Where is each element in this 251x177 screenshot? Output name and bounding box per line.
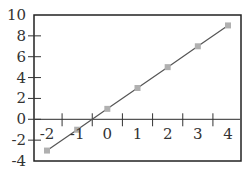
y-tick-label: 6 <box>16 48 26 66</box>
data-point-marker <box>195 43 201 49</box>
x-tick-label: 0 <box>103 125 113 143</box>
y-axis-tick-labels: 1086420-2-4 <box>7 6 26 170</box>
x-tick-label: -2 <box>40 125 55 143</box>
data-point-marker <box>44 148 50 154</box>
data-point-marker <box>104 106 110 112</box>
y-tick-label: -2 <box>11 131 26 149</box>
data-point-marker <box>135 85 141 91</box>
y-tick-label: 8 <box>16 27 26 45</box>
y-tick-label: -4 <box>11 152 26 170</box>
x-tick-label: -1 <box>70 125 85 143</box>
x-tick-label: 3 <box>193 125 203 143</box>
y-tick-label: 0 <box>16 110 26 128</box>
y-tick-label: 2 <box>16 89 26 107</box>
y-tick-label: 10 <box>7 6 26 24</box>
data-point-marker <box>225 22 231 28</box>
line-chart: 1086420-2-4 -2-101234 <box>0 0 251 177</box>
y-tick-label: 4 <box>16 69 26 87</box>
x-tick-label: 2 <box>163 125 173 143</box>
data-point-marker <box>165 64 171 70</box>
x-tick-label: 1 <box>133 125 143 143</box>
x-tick-label: 4 <box>223 125 233 143</box>
x-axis-tick-labels: -2-101234 <box>40 125 233 143</box>
